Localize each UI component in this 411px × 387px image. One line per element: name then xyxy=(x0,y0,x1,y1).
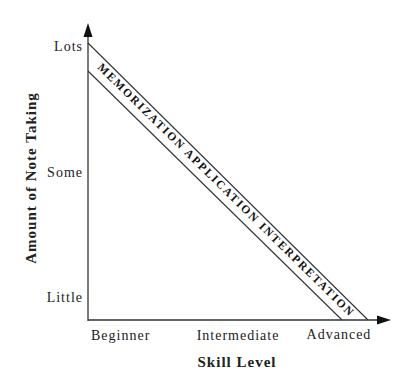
band-lower-line xyxy=(88,71,342,320)
y-tick-lots: Lots xyxy=(54,39,83,54)
x-tick-advanced: Advanced xyxy=(307,327,372,342)
y-axis-arrow-icon xyxy=(84,23,93,37)
diagram-canvas: MEMORIZATION APPLICATION INTERPRETATION … xyxy=(0,0,411,387)
x-tick-beginner: Beginner xyxy=(91,328,150,343)
x-axis-title: Skill Level xyxy=(198,354,277,370)
y-tick-some: Some xyxy=(47,165,83,180)
y-tick-little: Little xyxy=(47,290,83,305)
y-axis-title: Amount of Note Taking xyxy=(23,92,39,263)
band-label: MEMORIZATION APPLICATION INTERPRETATION xyxy=(96,61,357,319)
x-axis-arrow-icon xyxy=(377,316,391,325)
x-tick-intermediate: Intermediate xyxy=(197,328,280,343)
